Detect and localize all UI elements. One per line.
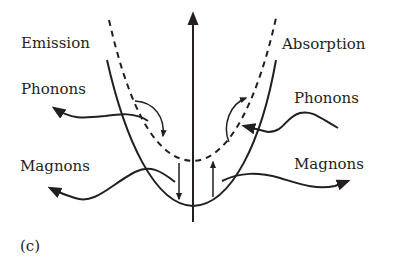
absorption-label: Absorption (282, 37, 365, 52)
left-curved-arrow (135, 101, 163, 136)
left-phonon-wave (54, 108, 148, 121)
phonons-right-label: Phonons (294, 91, 359, 106)
magnons-left-label: Magnons (20, 159, 90, 174)
magnons-right-label: Magnons (294, 157, 364, 172)
solid-parabola (107, 60, 276, 206)
right-curved-arrow (226, 98, 246, 142)
emission-label: Emission (21, 36, 90, 51)
right-phonon-wave (244, 112, 338, 132)
panel-label: (c) (20, 239, 40, 254)
right-magnon-wave (222, 174, 348, 187)
phonons-left-label: Phonons (21, 82, 86, 97)
